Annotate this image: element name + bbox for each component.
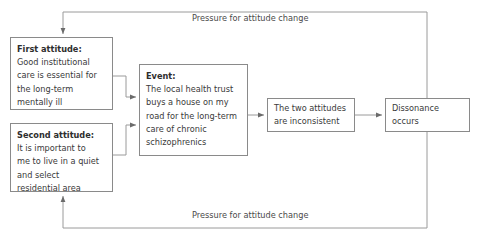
label-bottom-feedback-loop: Pressure for attitude change [189, 210, 312, 220]
dissonance-diagram: First attitude: Good institutional care … [0, 0, 479, 241]
node-event-line-3: road for the long-term [146, 110, 247, 123]
node-second-attitude-line-1: It is important to [17, 142, 112, 155]
connector-first-attitude-to-event [113, 76, 136, 97]
label-top-feedback-loop: Pressure for attitude change [189, 13, 312, 23]
node-event-line-1: The local health trust [146, 83, 247, 96]
node-second-attitude: Second attitude: It is important to me t… [10, 123, 113, 192]
node-event-heading: Event: [146, 70, 247, 83]
node-first-attitude-line-3: the long-term [17, 83, 112, 96]
node-event: Event: The local health trust buys a hou… [139, 64, 248, 156]
node-first-attitude-heading: First attitude: [17, 43, 112, 56]
node-event-line-2: buys a house on my [146, 96, 247, 109]
node-dissonance-occurs-line-1: Dissonance [392, 102, 469, 115]
node-attitudes-inconsistent-line-2: are inconsistent [274, 115, 354, 128]
node-second-attitude-line-3: and select [17, 169, 112, 182]
node-dissonance-occurs: Dissonance occurs [385, 98, 470, 132]
node-first-attitude-line-2: care is essential for [17, 69, 112, 82]
node-first-attitude-line-4: mentally ill [17, 96, 112, 109]
node-dissonance-occurs-line-2: occurs [392, 115, 469, 128]
connector-second-attitude-to-event [113, 125, 136, 155]
node-attitudes-inconsistent-line-1: The two attitudes [274, 102, 354, 115]
node-event-line-5: schizophrenics [146, 136, 247, 149]
node-second-attitude-heading: Second attitude: [17, 129, 112, 142]
node-attitudes-inconsistent: The two attitudes are inconsistent [267, 98, 355, 132]
node-second-attitude-line-4: residential area [17, 182, 112, 195]
node-first-attitude: First attitude: Good institutional care … [10, 37, 113, 110]
node-second-attitude-line-2: me to live in a quiet [17, 155, 112, 168]
node-first-attitude-line-1: Good institutional [17, 56, 112, 69]
node-event-line-4: care of chronic [146, 123, 247, 136]
